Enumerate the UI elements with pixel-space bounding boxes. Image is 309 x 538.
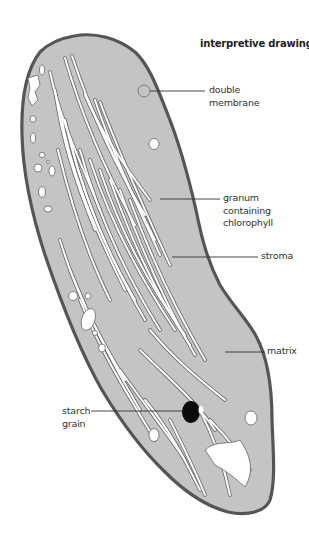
- label-line: starch: [62, 405, 90, 418]
- label-starch-grain: starch grain: [62, 405, 90, 430]
- chloroplast-illustration: [0, 0, 309, 538]
- label-double-membrane: double membrane: [209, 84, 259, 109]
- diagram-title: interpretive drawing: [200, 38, 309, 49]
- label-matrix: matrix: [267, 345, 297, 358]
- starch-highlight: [199, 406, 204, 414]
- label-line: matrix: [267, 345, 297, 358]
- label-line: stroma: [261, 250, 293, 263]
- label-granum: granum containing chlorophyll: [223, 192, 273, 230]
- chloroplast-diagram: interpretive drawing double membrane gra…: [0, 0, 309, 538]
- label-line: grain: [62, 418, 90, 431]
- label-line: chlorophyll: [223, 217, 273, 230]
- label-line: double: [209, 84, 259, 97]
- starch-grain-shape: [182, 401, 200, 423]
- label-line: granum: [223, 192, 273, 205]
- label-stroma: stroma: [261, 250, 293, 263]
- label-line: containing: [223, 205, 273, 218]
- label-line: membrane: [209, 97, 259, 110]
